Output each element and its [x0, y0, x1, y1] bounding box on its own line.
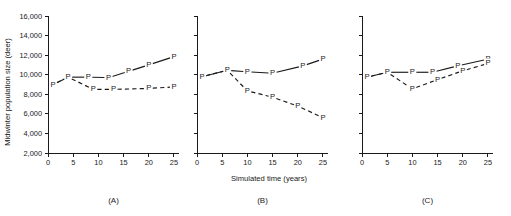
data-point-marker: P: [460, 66, 465, 75]
y-tick-label: 2,000: [24, 149, 43, 158]
y-tick-label: 14,000: [19, 31, 42, 40]
data-point-marker: P: [435, 75, 440, 84]
series-segment-solid: [462, 60, 484, 65]
y-tick-label: 6,000: [24, 109, 43, 118]
axis-lines: [197, 16, 328, 153]
series-segment-dashed: [206, 71, 223, 75]
x-tick-label: 20: [145, 158, 153, 167]
data-point-marker: P: [171, 82, 176, 91]
data-point-marker: P: [365, 72, 370, 81]
series-segment-dashed: [467, 65, 485, 70]
data-point-marker: P: [51, 80, 56, 89]
panel-caption: (A): [108, 196, 119, 205]
data-point-marker: P: [320, 113, 325, 122]
x-tick-label: 20: [459, 158, 467, 167]
x-tick-label: 15: [268, 158, 276, 167]
series-segment-solid: [132, 66, 145, 70]
data-point-marker: P: [66, 72, 71, 81]
data-point-marker: P: [485, 58, 490, 67]
series-segment-dashed: [118, 89, 145, 90]
series-segment-dashed: [276, 99, 294, 105]
data-point-marker: P: [270, 92, 275, 101]
axis-lines: [362, 16, 493, 153]
panel-caption: (B): [257, 196, 268, 205]
y-tick-label: 12,000: [19, 51, 42, 60]
data-point-marker: P: [126, 66, 131, 75]
x-tick-label: 0: [195, 158, 199, 167]
x-tick-label: 15: [433, 158, 441, 167]
x-tick-label: 0: [46, 158, 50, 167]
data-point-marker: P: [146, 83, 151, 92]
x-tick-label: 10: [94, 158, 102, 167]
x-tick-label: 25: [319, 158, 327, 167]
multi-panel-line-chart: Midwinter population size (deer) 2,0004,…: [0, 0, 511, 216]
panel-a: 2,0004,0006,0008,00010,00012,00014,00016…: [19, 12, 179, 205]
x-axis-title-text: Simulated time (years): [231, 174, 307, 183]
y-axis-title: Midwinter population size (deer): [3, 38, 12, 146]
series-segment-solid: [251, 72, 268, 73]
data-point-marker: P: [111, 84, 116, 93]
y-tick-label: 10,000: [19, 70, 42, 79]
data-point-marker: P: [295, 101, 300, 110]
data-point-marker: P: [200, 72, 205, 81]
series-segment-dashed: [230, 73, 245, 88]
series-segment-dashed: [301, 108, 319, 116]
x-tick-label: 10: [408, 158, 416, 167]
x-tick-label: 15: [119, 158, 127, 167]
series-segment-solid: [307, 60, 320, 64]
y-tick-label: 16,000: [19, 12, 42, 21]
series-segment-solid: [112, 72, 125, 76]
panel-caption: (C): [422, 196, 433, 205]
x-tick-label: 20: [294, 158, 302, 167]
data-point-marker: P: [86, 72, 91, 81]
series-segment-dashed: [441, 72, 459, 78]
series-segment-solid: [276, 67, 298, 72]
data-point-marker: P: [171, 52, 176, 61]
data-point-marker: P: [320, 54, 325, 63]
series-segment-dashed: [391, 74, 410, 86]
series-segment-dashed: [251, 92, 268, 96]
x-tick-label: 5: [220, 158, 224, 167]
x-tick-label: 5: [71, 158, 75, 167]
x-tick-label: 0: [360, 158, 364, 167]
data-point-marker: P: [270, 68, 275, 77]
y-axis-title-text: Midwinter population size (deer): [3, 38, 12, 146]
data-point-marker: P: [91, 84, 96, 93]
x-tick-label: 5: [385, 158, 389, 167]
data-point-marker: P: [410, 84, 415, 93]
data-point-marker: P: [300, 61, 305, 70]
series-segment-solid: [436, 67, 453, 71]
x-axis-title: Simulated time (years): [231, 174, 307, 183]
y-tick-label: 4,000: [24, 129, 43, 138]
data-point-marker: P: [410, 67, 415, 76]
data-point-marker: P: [225, 65, 230, 74]
data-point-marker: P: [245, 67, 250, 76]
panel-c: 0510152025PPPPPPPPPPPPPPPPPPPPPPPP(C): [359, 16, 494, 205]
series-segment-solid: [231, 71, 243, 72]
data-point-marker: P: [385, 67, 390, 76]
x-tick-label: 25: [484, 158, 492, 167]
data-point-marker: P: [245, 86, 250, 95]
x-tick-label: 25: [170, 158, 178, 167]
series-segment-dashed: [416, 81, 434, 88]
series-segment-solid: [153, 58, 171, 64]
series-segment-dashed: [153, 87, 170, 88]
data-point-marker: P: [106, 73, 111, 82]
x-tick-label: 10: [243, 158, 251, 167]
data-point-marker: P: [146, 60, 151, 69]
y-tick-label: 8,000: [24, 90, 43, 99]
figure-container: Midwinter population size (deer) 2,0004,…: [0, 0, 511, 216]
